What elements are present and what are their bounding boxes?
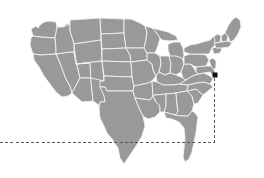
- state-north-dakota: [100, 18, 124, 34]
- state-south-dakota: [101, 33, 126, 49]
- state-florida: [164, 111, 198, 162]
- state-vermont: [214, 34, 221, 43]
- us-map-svg: [0, 0, 264, 178]
- state-wyoming: [74, 40, 102, 64]
- state-oregon: [30, 36, 56, 55]
- state-minnesota: [124, 19, 147, 48]
- map-canvas: [0, 0, 264, 178]
- state-nebraska: [102, 48, 131, 62]
- state-washington: [31, 21, 57, 38]
- location-marker[interactable]: [213, 73, 218, 78]
- state-kansas: [102, 61, 132, 77]
- state-indiana: [159, 56, 171, 75]
- state-shapes-group: [30, 17, 241, 164]
